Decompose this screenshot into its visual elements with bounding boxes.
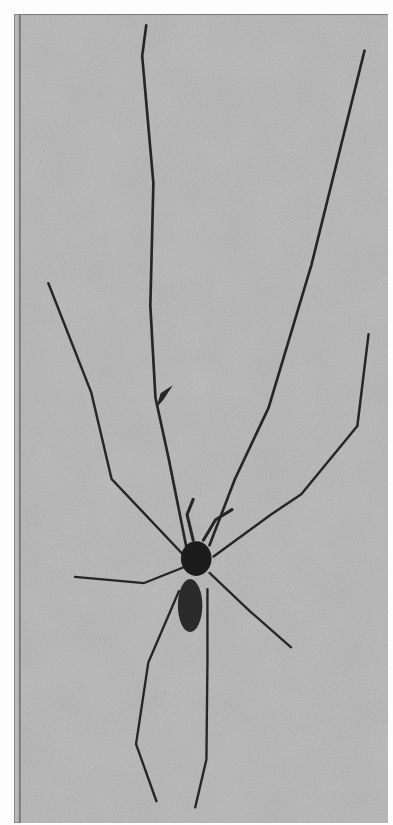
spider-illustration <box>14 14 388 823</box>
spider-cephalothorax <box>181 541 212 576</box>
photograph <box>14 14 388 823</box>
spider-abdomen <box>178 579 202 632</box>
